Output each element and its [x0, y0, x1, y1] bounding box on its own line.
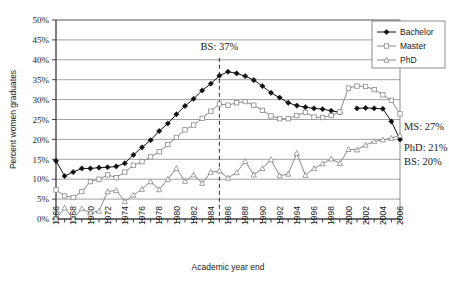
- datapoint-master-1971: [97, 177, 101, 181]
- ytick-label-25%: 25%: [33, 115, 50, 125]
- datapoint-phd-1994: [294, 151, 299, 156]
- datapoint-master-1996: [312, 115, 316, 119]
- datapoint-master-2005: [389, 98, 393, 102]
- xtick-label-1990: 1990: [258, 206, 268, 225]
- datapoint-master-1974: [123, 170, 127, 174]
- bs-end-annotation: BS: 20%: [404, 156, 442, 167]
- datapoint-master-1972: [105, 173, 109, 177]
- xtick-label-1966: 1966: [51, 206, 61, 225]
- ytick-label-35%: 35%: [33, 75, 50, 85]
- xtick-label-1996: 1996: [309, 206, 319, 225]
- datapoint-master-1994: [295, 113, 299, 117]
- datapoint-master-1992: [277, 117, 281, 121]
- datapoint-phd-1967: [62, 205, 67, 210]
- datapoint-phd-1980: [174, 166, 179, 171]
- line-chart: 0%5%10%15%20%25%30%35%40%45%50%196619681…: [0, 0, 449, 282]
- xtick-label-1978: 1978: [154, 206, 164, 225]
- datapoint-master-1999: [338, 110, 342, 114]
- datapoint-master-2003: [372, 87, 376, 91]
- xtick-label-1988: 1988: [240, 206, 250, 225]
- datapoint-bachelor-2002: [363, 105, 368, 110]
- datapoint-bachelor-1972: [105, 165, 110, 170]
- legend-label-bachelor: Bachelor: [400, 27, 434, 37]
- xtick-label-1998: 1998: [326, 206, 336, 225]
- datapoint-master-2004: [381, 93, 385, 97]
- datapoint-master-1976: [140, 159, 144, 163]
- datapoint-bachelor-1971: [96, 165, 101, 170]
- xtick-label-1974: 1974: [120, 206, 130, 225]
- datapoint-master-1981: [183, 128, 187, 132]
- datapoint-bachelor-1994: [294, 103, 299, 108]
- datapoint-master-1977: [148, 155, 152, 159]
- xtick-label-1976: 1976: [137, 206, 147, 225]
- series-master: [54, 84, 402, 200]
- datapoint-master-1985: [217, 102, 221, 106]
- ytick-label-45%: 45%: [33, 35, 50, 45]
- datapoint-master-1973: [114, 175, 118, 179]
- datapoint-phd-1975: [131, 192, 136, 197]
- xtick-label-1980: 1980: [172, 206, 182, 225]
- datapoint-phd-1998: [329, 156, 334, 161]
- xtick-label-2002: 2002: [361, 206, 371, 225]
- datapoint-master-1983: [200, 116, 204, 120]
- ytick-label-30%: 30%: [33, 95, 50, 105]
- y-axis-title: Percent women graduates: [8, 70, 18, 169]
- datapoint-phd-1993: [286, 171, 291, 176]
- legend-label-phd: PhD: [400, 55, 417, 65]
- datapoint-bachelor-1997: [320, 107, 325, 112]
- xtick-label-2006: 2006: [395, 206, 405, 225]
- datapoint-master-1998: [329, 113, 333, 117]
- chart-container: 0%5%10%15%20%25%30%35%40%45%50%196619681…: [0, 0, 449, 282]
- ytick-label-0%: 0%: [37, 214, 50, 224]
- datapoint-bachelor-1968: [71, 169, 76, 174]
- datapoint-bachelor-1969: [79, 166, 84, 171]
- ms-end-annotation: MS: 27%: [404, 121, 444, 132]
- xtick-label-2004: 2004: [378, 206, 388, 225]
- datapoint-master-1990: [260, 108, 264, 112]
- datapoint-master-1989: [252, 103, 256, 107]
- datapoint-bachelor-1993: [286, 100, 291, 105]
- datapoint-master-1984: [209, 109, 213, 113]
- datapoint-bachelor-1970: [88, 166, 93, 171]
- datapoint-master-1993: [286, 117, 290, 121]
- datapoint-phd-1997: [320, 161, 325, 166]
- datapoint-master-1995: [303, 110, 307, 114]
- datapoint-master-2002: [363, 84, 367, 88]
- legend-label-master: Master: [400, 41, 426, 51]
- phd-end-annotation: PhD: 21%: [404, 142, 448, 153]
- ytick-label-10%: 10%: [33, 174, 50, 184]
- ytick-label-5%: 5%: [37, 194, 50, 204]
- datapoint-master-1968: [71, 195, 75, 199]
- datapoint-phd-1969: [79, 206, 84, 211]
- xtick-label-1984: 1984: [206, 206, 216, 225]
- xtick-label-1994: 1994: [292, 206, 302, 225]
- datapoint-bachelor-1986: [225, 69, 230, 74]
- datapoint-bachelor-2003: [372, 106, 377, 111]
- x-axis-title: Academic year end: [192, 262, 265, 272]
- datapoint-phd-1985: [217, 168, 222, 173]
- datapoint-master-2000: [346, 86, 350, 90]
- datapoint-master-1988: [243, 99, 247, 103]
- chart-legend: BachelorMasterPhD: [372, 21, 445, 68]
- ytick-label-40%: 40%: [33, 55, 50, 65]
- datapoint-phd-1973: [114, 188, 119, 193]
- xtick-label-1982: 1982: [189, 206, 199, 225]
- datapoint-master-1987: [234, 101, 238, 105]
- ytick-label-20%: 20%: [33, 135, 50, 145]
- datapoint-master-1991: [269, 114, 273, 118]
- datapoint-master-1986: [226, 103, 230, 107]
- datapoint-bachelor-1995: [303, 105, 308, 110]
- datapoint-master-1980: [174, 135, 178, 139]
- xtick-label-1992: 1992: [275, 206, 285, 225]
- datapoint-phd-1996: [311, 166, 316, 171]
- datapoint-master-1975: [131, 163, 135, 167]
- datapoint-master-1979: [166, 142, 170, 146]
- datapoint-master-2001: [355, 84, 359, 88]
- datapoint-bachelor-1967: [62, 173, 67, 178]
- series-line-bachelor: [357, 108, 400, 139]
- datapoint-phd-1982: [191, 172, 196, 177]
- ytick-label-15%: 15%: [33, 155, 50, 165]
- datapoint-bachelor-1973: [114, 164, 119, 169]
- datapoint-master-1966: [54, 188, 58, 192]
- legend-marker-master: [384, 44, 388, 48]
